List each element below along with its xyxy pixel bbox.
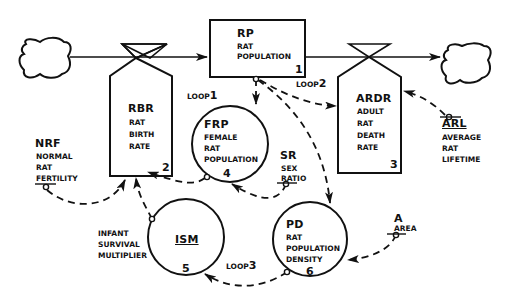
rp-code: RP: [237, 27, 254, 41]
ardr-desc-3: DEATH: [357, 131, 385, 140]
frp-desc-3: POPULATION: [204, 155, 258, 164]
rp-desc-2: POPULATION: [237, 52, 291, 61]
ardr-code: ARDR: [356, 92, 391, 106]
loop-1-label: LOOP1: [187, 89, 217, 103]
ism-code: ISM: [175, 233, 199, 247]
ism-desc-3: MULTIPLIER: [98, 251, 147, 260]
sink-cloud-icon: [442, 43, 491, 83]
loop-2-label: LOOP2: [296, 77, 326, 91]
arl-desc-3: LIFETIME: [442, 155, 480, 164]
pd-desc-3: DENSITY: [286, 255, 322, 264]
arl-desc-2: RAT: [442, 144, 458, 153]
ardr-valve-icon: [349, 44, 390, 57]
rp-number: 1: [295, 63, 303, 77]
rbr-code: RBR: [128, 102, 154, 116]
link-a-pd: [348, 235, 396, 260]
loop-3-label: LOOP3: [226, 259, 256, 273]
nrf-desc-3: FERTILITY: [36, 174, 78, 183]
pd-code: PD: [286, 218, 304, 232]
ism-desc-1: INFANT: [98, 229, 129, 238]
nrf-constant-marker: [43, 184, 48, 189]
arl-desc-1: AVERAGE: [442, 133, 481, 142]
sr-desc-1: SEX: [281, 164, 297, 173]
rbr-number: 2: [162, 161, 170, 175]
source-cloud-icon: [20, 38, 71, 78]
nrf-code: NRF: [35, 137, 61, 151]
frp-desc-2: RAT: [204, 144, 220, 153]
ardr-number: 3: [390, 158, 398, 172]
arl-code: ARL: [442, 117, 467, 131]
link-arl-ardr: [404, 91, 445, 115]
frp-number: 4: [223, 167, 231, 181]
sr-code: SR: [280, 149, 297, 163]
a-desc: AREA: [394, 224, 417, 233]
flow-diagram-canvas: [0, 0, 515, 305]
rp-level-box[interactable]: [210, 20, 305, 77]
ism-number: 5: [182, 262, 190, 276]
ardr-desc-4: RATE: [357, 143, 378, 152]
pd-desc-2: POPULATION: [286, 244, 340, 253]
link-sr-frp: [232, 184, 286, 198]
rbr-rate-box[interactable]: [110, 58, 172, 176]
link-pd-ism: [205, 272, 287, 286]
nrf-desc-2: RAT: [36, 163, 52, 172]
ardr-desc-2: RAT: [357, 119, 373, 128]
link-origin-rp: [253, 76, 258, 81]
ism-desc-2: SURVIVAL: [98, 240, 140, 249]
rbr-desc-3: RATE: [129, 142, 150, 151]
rbr-desc-1: RAT: [129, 118, 145, 127]
nrf-desc-1: NORMAL: [36, 152, 72, 161]
pd-number: 6: [306, 265, 314, 279]
link-nrf-rbr: [47, 180, 125, 204]
frp-code: FRP: [204, 118, 229, 132]
pd-desc-1: RAT: [286, 233, 302, 242]
frp-desc-1: FEMALE: [204, 133, 237, 142]
rp-desc-1: RAT: [237, 42, 253, 51]
link-ism-rbr: [136, 178, 152, 219]
rbr-desc-2: BIRTH: [129, 130, 154, 139]
ardr-desc-1: ADULT: [357, 107, 384, 116]
sr-desc-2: RATIO: [281, 174, 306, 183]
